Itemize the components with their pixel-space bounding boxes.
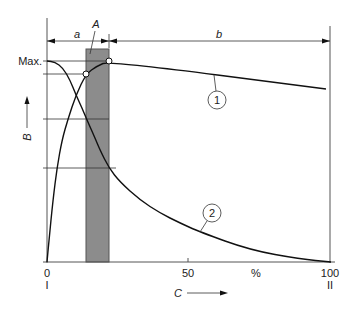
region-A-label: A: [91, 18, 99, 30]
marker-point-max: [106, 58, 112, 64]
curve-2-leader: [200, 221, 207, 232]
x-tick-0-sub: I: [45, 279, 48, 291]
y-max-label: Max.: [18, 55, 42, 67]
curve-2-label: 2: [209, 207, 215, 219]
x-tick-100-sub: II: [327, 279, 333, 291]
y-axis-label: B: [21, 133, 33, 140]
arrow-a-right-icon: [101, 39, 109, 44]
y-axis-arrow-icon: [25, 96, 30, 104]
x-axis-arrow-icon: [220, 291, 228, 296]
arrow-b-right-icon: [322, 39, 330, 44]
process-diagram: 1 2 a b A Max. B 0 I 50 % 100 II C: [0, 0, 355, 313]
diagram-canvas: 1 2 a b A Max. B 0 I 50 % 100 II C: [0, 0, 355, 313]
x-tick-50-label: 50: [182, 267, 194, 279]
marker-point-lower: [83, 71, 89, 77]
x-axis-label: C: [174, 287, 182, 299]
arrow-a-left-icon: [47, 39, 55, 44]
arrow-b-left-icon: [109, 39, 117, 44]
curve-1-label: 1: [214, 94, 220, 106]
region-A-shade: [86, 49, 109, 262]
region-b-label: b: [216, 28, 222, 40]
x-unit-label: %: [251, 267, 261, 279]
x-tick-100: 100: [321, 267, 339, 279]
region-a-label: a: [74, 28, 80, 40]
x-tick-0: 0: [44, 267, 50, 279]
curve-1-leader: [214, 75, 216, 91]
